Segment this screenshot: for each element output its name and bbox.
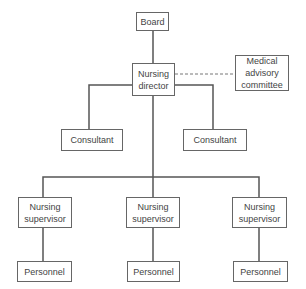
consultant-left-node: Consultant — [61, 129, 123, 151]
board-node: Board — [136, 12, 169, 31]
nursing-supervisor-right-node: Nursing supervisor — [232, 197, 287, 228]
nursing-supervisor-left-node: Nursing supervisor — [18, 197, 72, 228]
consultant-right-node: Consultant — [183, 129, 247, 151]
personnel-left-node: Personnel — [17, 261, 72, 282]
personnel-right-node: Personnel — [233, 261, 288, 282]
connector-lines — [0, 0, 306, 289]
nursing-supervisor-center-node: Nursing supervisor — [126, 197, 180, 228]
nursing-director-node: Nursing director — [132, 63, 175, 96]
medical-advisory-committee-node: Medical advisory committee — [235, 55, 289, 91]
personnel-center-node: Personnel — [127, 261, 180, 282]
